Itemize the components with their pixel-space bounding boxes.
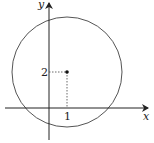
- center-point: [65, 70, 69, 74]
- x-tick-label: 1: [64, 110, 71, 123]
- circle-diagram: 2 1 x y: [0, 0, 154, 143]
- y-tick-label: 2: [41, 66, 48, 79]
- diagram-canvas: 2 1 x y: [0, 0, 154, 143]
- x-axis-label: x: [143, 110, 150, 123]
- y-axis-label: y: [37, 0, 45, 11]
